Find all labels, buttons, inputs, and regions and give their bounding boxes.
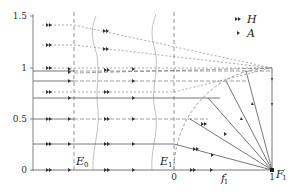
- y-tick-0: 0: [21, 165, 27, 175]
- e0-label: E0: [75, 155, 89, 169]
- legend-h-label: H: [246, 13, 257, 26]
- x-tick-1: 1: [269, 172, 275, 182]
- legend-a-marker-icon: [237, 31, 240, 35]
- y-tick-1: 1: [21, 63, 27, 73]
- a-arrow-markers: [68, 67, 273, 172]
- legend-a-label: A: [246, 27, 255, 40]
- y-tick-0.5: 0.5: [13, 114, 28, 124]
- radial-trajectories: [174, 71, 272, 170]
- wavy-curve-left: [92, 16, 98, 170]
- x-axis-label: f′1: [220, 172, 228, 186]
- y-tick-1.5: 1.5: [13, 11, 28, 21]
- f1-label: F′1: [275, 168, 287, 182]
- e1-label: E1: [159, 155, 173, 169]
- x-tick-0: 0: [171, 172, 177, 182]
- dotted-upper-trajectories: [42, 25, 272, 92]
- solid-horizontal-trajectories: [33, 71, 220, 144]
- legend-h-marker-icon: [235, 17, 241, 21]
- dashed-horizontal-trajectories: [74, 68, 272, 119]
- phase-portrait-diagram: 1.5 1 0.5 0: [0, 0, 299, 192]
- y-axis: [30, 14, 33, 171]
- legend: H A: [235, 13, 257, 40]
